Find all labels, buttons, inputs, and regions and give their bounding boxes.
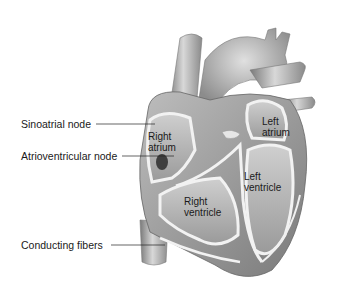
- label-left-ventricle-line2: ventricle: [244, 182, 281, 193]
- label-sinoatrial-node: Sinoatrial node: [21, 118, 91, 130]
- label-left-ventricle: Left ventricle: [244, 171, 281, 193]
- label-right-atrium-line2: atrium: [148, 142, 176, 153]
- label-right-atrium-line1: Right: [148, 131, 176, 142]
- label-right-ventricle-line1: Right: [184, 196, 221, 207]
- label-atrioventricular-node: Atrioventricular node: [21, 150, 117, 162]
- label-left-atrium: Left atrium: [262, 116, 290, 138]
- label-left-atrium-line2: atrium: [262, 127, 290, 138]
- heart-diagram: Sinoatrial node Atrioventricular node Co…: [0, 0, 338, 287]
- label-right-ventricle-line2: ventricle: [184, 207, 221, 218]
- label-conducting-fibers: Conducting fibers: [21, 239, 103, 251]
- label-right-ventricle: Right ventricle: [184, 196, 221, 218]
- label-left-ventricle-line1: Left: [244, 171, 281, 182]
- label-left-atrium-line1: Left: [262, 116, 290, 127]
- coronary-sinus: [156, 154, 168, 170]
- label-right-atrium: Right atrium: [148, 131, 176, 153]
